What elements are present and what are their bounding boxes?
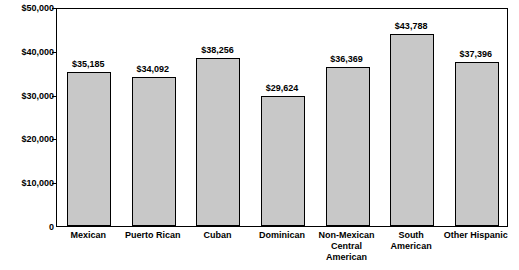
bar-chart: 0$10,000$20,000$30,000$40,000$50,000 Mex…: [0, 0, 519, 270]
x-axis-category-line: Cuban: [185, 230, 250, 241]
y-axis-tick-label: $10,000: [2, 178, 54, 188]
bar: [455, 62, 499, 226]
x-axis-category-line: Puerto Rican: [121, 230, 186, 241]
x-axis-category-line: Other Hispanic: [443, 230, 508, 241]
x-axis: MexicanPuerto RicanCubanDominicanNon-Mex…: [56, 230, 508, 264]
y-axis-tick-label: $40,000: [2, 47, 54, 57]
bar-value-label: $38,256: [177, 45, 257, 55]
bar: [132, 77, 176, 226]
bar: [326, 67, 370, 226]
y-axis: 0$10,000$20,000$30,000$40,000$50,000: [0, 0, 54, 235]
bar-value-label: $36,369: [307, 54, 387, 64]
x-axis-category-line: Central American: [314, 241, 379, 263]
x-axis-category-label: South American: [379, 230, 444, 252]
bar-value-label: $43,788: [371, 21, 451, 31]
x-axis-category-label: Other Hispanic: [443, 230, 508, 241]
bar: [196, 58, 240, 226]
y-axis-tick-label: $20,000: [2, 134, 54, 144]
bar-value-label: $37,396: [436, 49, 516, 59]
y-axis-tick-label: $30,000: [2, 91, 54, 101]
bar: [261, 96, 305, 226]
x-axis-category-label: Cuban: [185, 230, 250, 241]
bar-value-label: $34,092: [113, 64, 193, 74]
y-axis-tick-label: 0: [2, 222, 54, 232]
x-axis-category-label: Non-MexicanCentral American: [314, 230, 379, 263]
bar: [390, 34, 434, 226]
x-axis-category-line: Mexican: [56, 230, 121, 241]
x-axis-category-label: Dominican: [250, 230, 315, 241]
x-axis-category-label: Puerto Rican: [121, 230, 186, 241]
x-axis-category-line: South American: [379, 230, 444, 252]
bar-value-label: $29,624: [242, 83, 322, 93]
bar: [67, 72, 111, 226]
x-axis-category-line: Non-Mexican: [314, 230, 379, 241]
x-axis-category-label: Mexican: [56, 230, 121, 241]
plot-area: [56, 8, 508, 227]
x-axis-category-line: Dominican: [250, 230, 315, 241]
y-axis-tick-label: $50,000: [2, 3, 54, 13]
